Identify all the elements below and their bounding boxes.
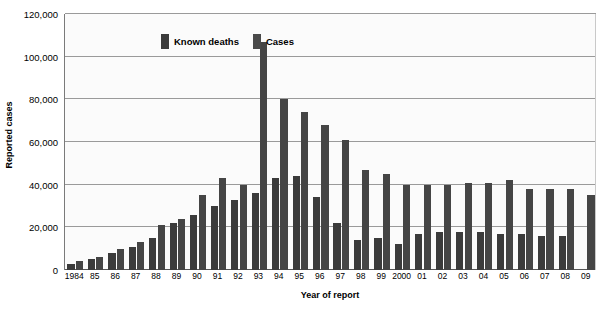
bar <box>424 185 431 270</box>
bar <box>260 42 267 270</box>
x-tick-label-91: 91 <box>213 271 222 281</box>
bar-group <box>538 14 554 270</box>
bar-group <box>272 14 288 270</box>
legend-entry-cases: Cases <box>253 34 294 49</box>
x-tick-label-2000: 2000 <box>392 271 411 281</box>
bar-group <box>579 14 595 270</box>
x-tick-label-90: 90 <box>192 271 201 281</box>
legend-entry-known-deaths: Known deaths <box>161 34 239 49</box>
x-tick-label-08: 08 <box>561 271 570 281</box>
bars-layer <box>65 14 596 270</box>
bar-group <box>374 14 390 270</box>
y-tick-label-20000: 20,000 <box>29 222 58 233</box>
bar-group <box>88 14 104 270</box>
y-tick-label-120000: 120,000 <box>24 9 58 20</box>
bar <box>129 247 136 270</box>
x-tick-label-04: 04 <box>479 271 488 281</box>
x-tick-label-87: 87 <box>131 271 140 281</box>
bar-group <box>456 14 472 270</box>
y-tick-label-60000: 60,000 <box>29 137 58 148</box>
bar <box>477 232 484 270</box>
x-tick-label-01: 01 <box>417 271 426 281</box>
bar <box>436 232 443 270</box>
bar <box>518 234 525 270</box>
y-tick-label-0: 0 <box>53 265 58 276</box>
x-tick-label-85: 85 <box>90 271 99 281</box>
bar <box>354 240 361 270</box>
legend-label-known-deaths: Known deaths <box>174 36 239 47</box>
bar <box>415 234 422 270</box>
x-tick-label-1984: 1984 <box>65 271 84 281</box>
bar <box>567 189 574 270</box>
y-axis-title-text: Reported cases <box>4 101 14 168</box>
y-axis-tick-labels: 020,00040,00060,00080,000100,000120,000 <box>16 0 62 278</box>
bar <box>272 178 279 270</box>
chart-legend: Known deaths Cases <box>161 34 294 49</box>
x-tick-label-09: 09 <box>581 271 590 281</box>
bar-group <box>497 14 513 270</box>
bar-group <box>313 14 329 270</box>
x-axis-tick-labels: 1984858687888990919293949596979899200001… <box>64 271 596 285</box>
x-tick-label-02: 02 <box>438 271 447 281</box>
bar <box>395 244 402 270</box>
bar <box>465 183 472 270</box>
bar-group <box>252 14 268 270</box>
bar <box>456 232 463 270</box>
bar <box>190 215 197 270</box>
bar <box>526 189 533 270</box>
bar-group <box>354 14 370 270</box>
x-tick-label-03: 03 <box>458 271 467 281</box>
bar <box>559 236 566 270</box>
bar-group <box>170 14 186 270</box>
legend-label-cases: Cases <box>266 36 294 47</box>
bar <box>211 206 218 270</box>
bar <box>137 242 144 270</box>
bar <box>178 219 185 270</box>
x-tick-label-93: 93 <box>254 271 263 281</box>
bar <box>149 238 156 270</box>
bar <box>342 140 349 270</box>
bar-group <box>211 14 227 270</box>
legend-swatch-cases <box>253 34 261 49</box>
bar <box>362 170 369 270</box>
bar <box>485 183 492 270</box>
x-tick-label-07: 07 <box>540 271 549 281</box>
bar <box>333 223 340 270</box>
y-tick-label-40000: 40,000 <box>29 179 58 190</box>
bar <box>546 189 553 270</box>
bar-group <box>436 14 452 270</box>
bar-group <box>149 14 165 270</box>
bar <box>96 257 103 270</box>
bar-group <box>415 14 431 270</box>
bar <box>280 99 287 270</box>
bar <box>158 225 165 270</box>
x-tick-label-95: 95 <box>295 271 304 281</box>
bar-group <box>67 14 83 270</box>
x-tick-label-92: 92 <box>233 271 242 281</box>
bar <box>219 178 226 270</box>
x-tick-label-94: 94 <box>274 271 283 281</box>
bar <box>383 174 390 270</box>
plot-area: Known deaths Cases <box>64 14 596 270</box>
y-tick-label-80000: 80,000 <box>29 94 58 105</box>
x-tick-label-89: 89 <box>172 271 181 281</box>
bar-group <box>293 14 309 270</box>
bar <box>108 253 115 270</box>
bar <box>587 195 594 270</box>
x-tick-label-97: 97 <box>335 271 344 281</box>
x-axis-title: Year of report <box>64 290 596 300</box>
x-tick-label-96: 96 <box>315 271 324 281</box>
y-tick-label-100000: 100,000 <box>24 51 58 62</box>
bar-group <box>231 14 247 270</box>
bar <box>231 200 238 270</box>
x-tick-label-86: 86 <box>110 271 119 281</box>
bar-group <box>108 14 124 270</box>
bar <box>301 112 308 270</box>
x-tick-label-06: 06 <box>520 271 529 281</box>
bar-chart: Reported cases 020,00040,00060,00080,000… <box>0 0 603 319</box>
legend-swatch-known-deaths <box>161 34 169 49</box>
bar <box>313 197 320 270</box>
bar <box>88 259 95 270</box>
bar <box>199 195 206 270</box>
bar <box>170 223 177 270</box>
